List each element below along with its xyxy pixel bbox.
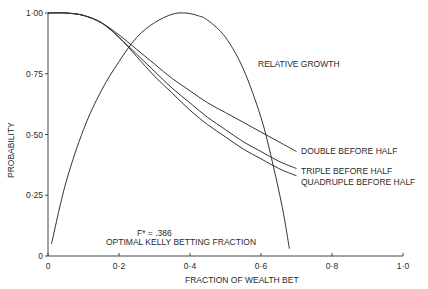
kelly-chart: 00·20·40·60·81·0 00·250·500·751·00 RELAT… [0,0,428,289]
series-lines [48,13,297,249]
y-tick-label: 0 [38,251,43,261]
y-tick-label: 0·75 [26,69,43,79]
series-triple-before-half [48,13,297,169]
label-relative-growth: RELATIVE GROWTH [258,59,340,69]
x-tick-label: 1·0 [397,261,410,271]
y-ticks: 00·250·500·751·00 [26,8,48,261]
label-double-before-half: DOUBLE BEFORE HALF [301,146,397,156]
y-tick-label: 0·25 [26,190,43,200]
axes [48,13,403,256]
x-axis-title: FRACTION OF WEALTH BET [185,275,299,285]
y-tick-label: 1·00 [26,8,43,18]
series-relative-growth [52,13,290,249]
series-quadruple-before-half [48,13,297,176]
y-axis-title: PROBABILITY [6,122,16,178]
x-tick-label: 0·6 [255,261,268,271]
x-tick-label: 0·2 [113,261,126,271]
x-tick-label: 0 [46,261,51,271]
x-tick-label: 0·8 [326,261,339,271]
series-double-before-half [48,13,297,152]
y-tick-label: 0·50 [26,130,43,140]
label-optimal-kelly: OPTIMAL KELLY BETTING FRACTION [106,237,256,247]
x-tick-label: 0·4 [184,261,197,271]
label-quadruple-before-half: QUADRUPLE BEFORE HALF [301,177,415,187]
label-triple-before-half: TRIPLE BEFORE HALF [301,166,392,176]
